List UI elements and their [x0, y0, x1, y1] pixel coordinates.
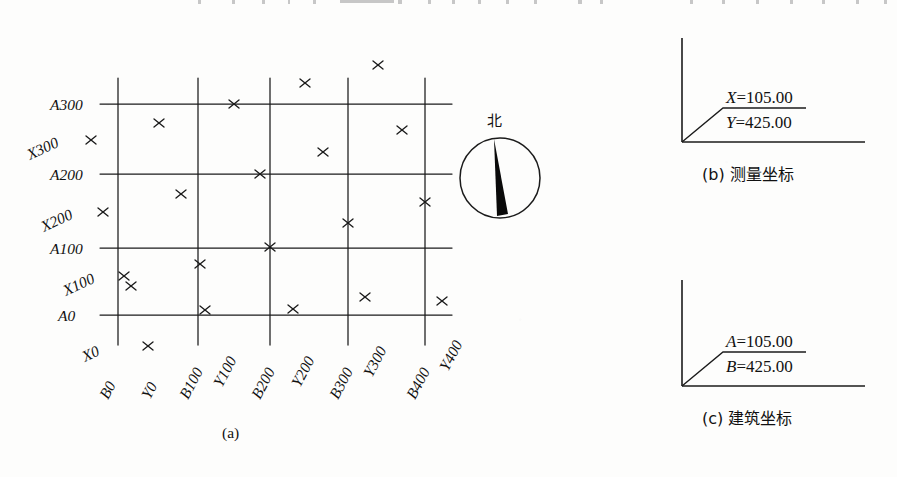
panel-a-grid: A300 A200 A100 A0 X300 X200 X100 X0 B0 B…: [23, 61, 466, 442]
grid-marker: [360, 293, 370, 301]
label-A100: A100: [49, 240, 83, 257]
label-Y400: Y400: [436, 337, 466, 373]
grid-marker: [126, 282, 136, 290]
label-Y0: Y0: [138, 379, 161, 402]
panel-b-symbol-x: X: [725, 88, 737, 107]
panel-c-symbol-b: B: [726, 357, 737, 376]
panel-a-caption: (a): [222, 424, 239, 442]
panel-b-value-y: 425.00: [745, 113, 792, 132]
grid-marker: [397, 126, 407, 134]
label-A0: A0: [57, 307, 75, 324]
panel-b-line-2: Y=425.00: [726, 113, 792, 132]
label-X200: X200: [37, 205, 75, 235]
grid-marker: [143, 342, 153, 350]
figure-page: A300 A200 A100 A0 X300 X200 X100 X0 B0 B…: [0, 0, 897, 477]
panel-c-value-b: 425.00: [746, 357, 793, 376]
label-A200: A200: [49, 166, 83, 183]
label-B100: B100: [176, 364, 206, 401]
grid-marker: [98, 208, 108, 216]
figure-canvas: A300 A200 A100 A0 X300 X200 X100 X0 B0 B…: [0, 0, 897, 477]
grid-marker: [318, 148, 328, 156]
compass-needle-icon: [494, 139, 508, 216]
label-Y100: Y100: [210, 353, 240, 389]
label-A300: A300: [49, 96, 83, 113]
panel-c-symbol-a: A: [725, 332, 737, 351]
panel-c-value-a: 105.00: [746, 332, 793, 351]
grid-marker: [154, 119, 164, 127]
panel-b-caption: (b) 测量坐标: [702, 165, 794, 184]
grid-marker: [288, 305, 298, 313]
grid-marker: [300, 79, 310, 87]
compass-north-label: 北: [487, 112, 502, 130]
panel-b-value-x: 105.00: [746, 88, 793, 107]
grid-marker: [195, 260, 205, 268]
grid-marker: [119, 272, 129, 280]
grid-marker: [437, 297, 447, 305]
panel-c-caption: (c) 建筑坐标: [702, 409, 792, 428]
panel-c-line-2: B=425.00: [726, 357, 793, 376]
label-B0: B0: [96, 378, 119, 401]
label-Y300: Y300: [360, 343, 390, 379]
label-X100: X100: [59, 269, 97, 299]
compass-rose: 北: [460, 112, 540, 218]
label-X0: X0: [78, 342, 102, 365]
label-B200: B200: [248, 364, 278, 401]
label-B300: B300: [326, 364, 356, 401]
panel-c-line-1: A=105.00: [725, 332, 793, 351]
grid-marker: [373, 61, 383, 69]
grid-marker: [200, 306, 210, 314]
grid-marker: [86, 136, 96, 144]
label-X300: X300: [23, 133, 61, 163]
label-Y200: Y200: [288, 353, 318, 389]
panel-c: A=105.00 B=425.00 (c) 建筑坐标: [682, 280, 865, 428]
label-B400: B400: [403, 364, 433, 401]
grid-marker: [176, 190, 186, 198]
panel-b-line-1: X=105.00: [725, 88, 793, 107]
panel-b: X=105.00 Y=425.00 (b) 测量坐标: [682, 38, 865, 184]
